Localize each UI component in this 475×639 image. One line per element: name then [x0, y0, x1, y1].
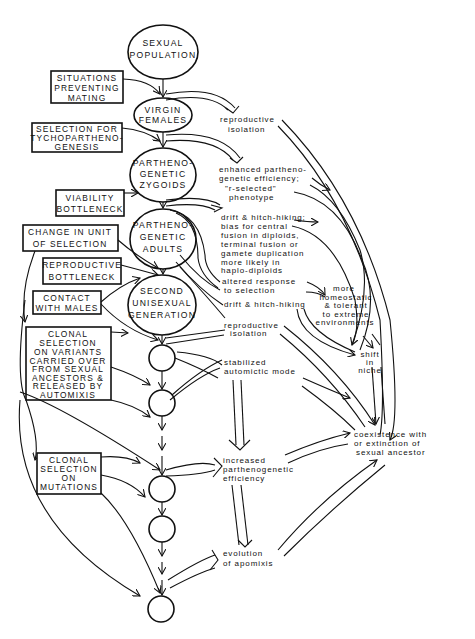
svg-text:bias for central: bias for central: [221, 222, 288, 231]
svg-text:reproductive: reproductive: [220, 115, 275, 124]
generation-circle-4: [149, 390, 175, 416]
svg-text:terminal fusion or: terminal fusion or: [221, 240, 299, 249]
svg-text:GENETIC: GENETIC: [140, 232, 187, 242]
svg-text:CHANGE IN UNIT: CHANGE IN UNIT: [28, 227, 112, 237]
svg-text:GENESIS: GENESIS: [55, 142, 100, 152]
outcome-drift-hitch-hiking: drift & hitch-hiking: [224, 300, 306, 309]
parthenogenesis-flow-diagram: SEXUAL POPULATION VIRGIN FEMALES PARTHEN…: [0, 0, 475, 639]
svg-text:enhanced partheno-: enhanced partheno-: [219, 165, 307, 174]
outcome-increased-efficiency: increased parthenogenetic efficiency: [223, 456, 294, 483]
svg-text:or extinction of: or extinction of: [354, 439, 420, 448]
svg-text:gamete duplication: gamete duplication: [221, 249, 304, 258]
svg-text:OF SELECTION: OF SELECTION: [33, 239, 108, 249]
node-virgin-females: VIRGIN FEMALES: [134, 98, 192, 132]
svg-text:PREVENTING: PREVENTING: [54, 83, 119, 93]
svg-text:REPRODUCTIVE: REPRODUCTIVE: [42, 260, 122, 270]
svg-text:BOTTLENECK: BOTTLENECK: [57, 204, 124, 214]
svg-text:drift & hitch-hiking: drift & hitch-hiking: [224, 300, 306, 309]
svg-text:parthenogenetic: parthenogenetic: [223, 465, 294, 474]
svg-text:MUTATIONS: MUTATIONS: [40, 482, 98, 492]
svg-text:ADULTS: ADULTS: [143, 244, 183, 254]
outcome-coexistence-or-extinction: coexistence with or extinction of sexual…: [354, 430, 427, 457]
outcome-homeostatic: more homeostatic & tolerant to extreme e…: [316, 284, 375, 327]
factor-situations-preventing-mating: SITUATIONS PREVENTING MATING: [51, 71, 160, 103]
svg-text:& tolerant: & tolerant: [324, 301, 367, 310]
outcome-altered-response: altered response to selection: [222, 277, 296, 295]
svg-text:of apomixis: of apomixis: [223, 559, 273, 568]
outcome-reproductive-isolation-1: reproductive isolation: [220, 115, 275, 134]
svg-text:"r-selected": "r-selected": [225, 184, 277, 193]
generation-circle-n1: [149, 516, 175, 542]
svg-text:PARTHENO-: PARTHENO-: [133, 220, 194, 230]
svg-text:ZYGOIDS: ZYGOIDS: [139, 180, 186, 190]
svg-text:automictic mode: automictic mode: [224, 367, 296, 376]
svg-text:FEMALES: FEMALES: [139, 115, 188, 125]
outcome-stabilized-automictic-mode: stabilized automictic mode: [224, 358, 296, 376]
svg-text:to selection: to selection: [224, 286, 275, 295]
outcome-reproductive-isolation-2: reproductive isolation: [224, 321, 279, 338]
svg-text:more: more: [333, 284, 355, 293]
svg-text:drift & hitch-hiking;: drift & hitch-hiking;: [221, 213, 306, 222]
svg-text:niche: niche: [358, 366, 382, 375]
factor-viability-bottleneck: VIABILITY BOTTLENECK: [56, 190, 138, 216]
svg-text:efficiency: efficiency: [223, 474, 265, 483]
svg-text:SECOND: SECOND: [140, 286, 184, 296]
svg-text:POPULATION: POPULATION: [130, 50, 197, 60]
svg-text:stabilized: stabilized: [224, 358, 266, 367]
svg-text:GENERATION: GENERATION: [128, 310, 196, 320]
svg-text:MATING: MATING: [68, 93, 107, 103]
node-second-unisexual-generation: SECOND UNISEXUAL GENERATION: [128, 275, 196, 335]
svg-text:GENETIC: GENETIC: [140, 169, 187, 179]
outcome-shift-in-niche: shift in niche: [358, 350, 382, 375]
svg-text:fusion in diploids,: fusion in diploids,: [221, 231, 299, 240]
factor-clonal-selection-variants: CLONAL SELECTION ON VARIANTS CARRIED OVE…: [20, 327, 160, 470]
svg-text:WITH MALES: WITH MALES: [35, 303, 98, 313]
svg-text:phenotype: phenotype: [229, 193, 274, 202]
svg-text:isolation: isolation: [228, 125, 265, 134]
svg-text:VIRGIN: VIRGIN: [145, 105, 182, 115]
svg-text:VIABILITY: VIABILITY: [66, 193, 115, 203]
svg-text:evolution: evolution: [223, 549, 263, 558]
svg-text:increased: increased: [223, 456, 266, 465]
svg-text:SITUATIONS: SITUATIONS: [57, 73, 118, 83]
svg-text:BOTTLENECK: BOTTLENECK: [49, 272, 116, 282]
svg-text:coexistence with: coexistence with: [354, 430, 427, 439]
svg-text:haplo-diploids: haplo-diploids: [221, 266, 283, 275]
svg-text:sexual ancestor: sexual ancestor: [356, 448, 426, 457]
svg-text:isolation: isolation: [230, 329, 267, 338]
node-parthenogenetic-adults: PARTHENO- GENETIC ADULTS: [130, 209, 196, 269]
svg-text:UNISEXUAL: UNISEXUAL: [132, 298, 192, 308]
svg-text:genetic efficiency;: genetic efficiency;: [219, 174, 300, 183]
node-parthenogenetic-zygoids: PARTHENO- GENETIC ZYGOIDS: [130, 148, 196, 202]
svg-text:SEXUAL: SEXUAL: [142, 38, 183, 48]
generation-circle-final: [148, 596, 174, 622]
svg-text:environments: environments: [316, 318, 375, 327]
generation-circle-n: [149, 476, 175, 502]
svg-text:altered response: altered response: [222, 277, 296, 286]
generation-circle-3: [149, 345, 175, 371]
svg-text:CONTACT: CONTACT: [43, 293, 91, 303]
svg-text:PARTHENO-: PARTHENO-: [133, 158, 194, 168]
svg-text:AUTOMIXIS: AUTOMIXIS: [40, 390, 96, 400]
node-sexual-population: SEXUAL POPULATION: [128, 25, 198, 79]
factor-clonal-selection-mutations: CLONAL SELECTION ON MUTATIONS: [37, 453, 160, 593]
factor-selection-tychoparthenogenesis: SELECTION FOR TYCHOPARTHENO- GENESIS: [30, 123, 160, 152]
outcome-drift-bias: drift & hitch-hiking; bias for central f…: [221, 213, 306, 275]
outcome-evolution-of-apomixis: evolution of apomixis: [223, 549, 273, 568]
outcome-enhanced-efficiency: enhanced partheno- genetic efficiency; "…: [219, 165, 307, 202]
